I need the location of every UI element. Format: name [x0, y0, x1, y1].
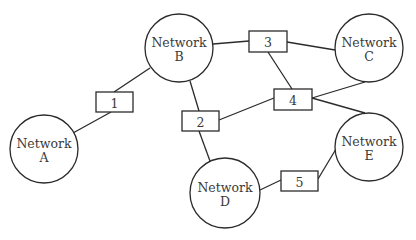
- network-node-c: NetworkC: [335, 14, 403, 82]
- network-label: Network: [151, 35, 207, 50]
- router-label: 5: [296, 175, 304, 190]
- connection-line: [190, 81, 199, 111]
- network-letter: C: [364, 49, 374, 64]
- network-letter: E: [364, 148, 373, 163]
- connection-line: [312, 82, 365, 98]
- network-letter: D: [220, 194, 230, 209]
- network-node-d: NetworkD: [190, 158, 260, 228]
- network-node-b: NetworkB: [145, 14, 213, 82]
- connection-line: [73, 112, 111, 133]
- connection-line: [318, 149, 336, 179]
- router-box-4: 4: [274, 89, 312, 110]
- router-box-1: 1: [96, 92, 133, 112]
- router-box-5: 5: [281, 171, 318, 191]
- connection-line: [114, 68, 150, 92]
- router-label: 4: [289, 93, 297, 108]
- network-node-e: NetworkE: [335, 113, 403, 181]
- connection-line: [287, 42, 335, 50]
- router-label: 1: [111, 96, 119, 111]
- connection-line: [213, 41, 249, 44]
- connection-line: [199, 131, 210, 161]
- router-box-3: 3: [249, 31, 287, 52]
- router-box-2: 2: [182, 111, 219, 131]
- connection-line: [260, 180, 281, 190]
- connection-line: [268, 52, 292, 89]
- network-label: Network: [197, 180, 253, 195]
- network-node-a: NetworkA: [10, 115, 78, 183]
- connection-line: [312, 98, 365, 113]
- network-label: Network: [341, 134, 397, 149]
- network-label: Network: [341, 35, 397, 50]
- connection-line: [219, 98, 274, 120]
- network-letter: A: [38, 150, 49, 165]
- network-diagram: NetworkANetworkBNetworkCNetworkDNetworkE…: [0, 0, 416, 240]
- network-letter: B: [174, 49, 183, 64]
- router-label: 3: [264, 35, 272, 50]
- network-label: Network: [16, 136, 72, 151]
- router-label: 2: [197, 115, 205, 130]
